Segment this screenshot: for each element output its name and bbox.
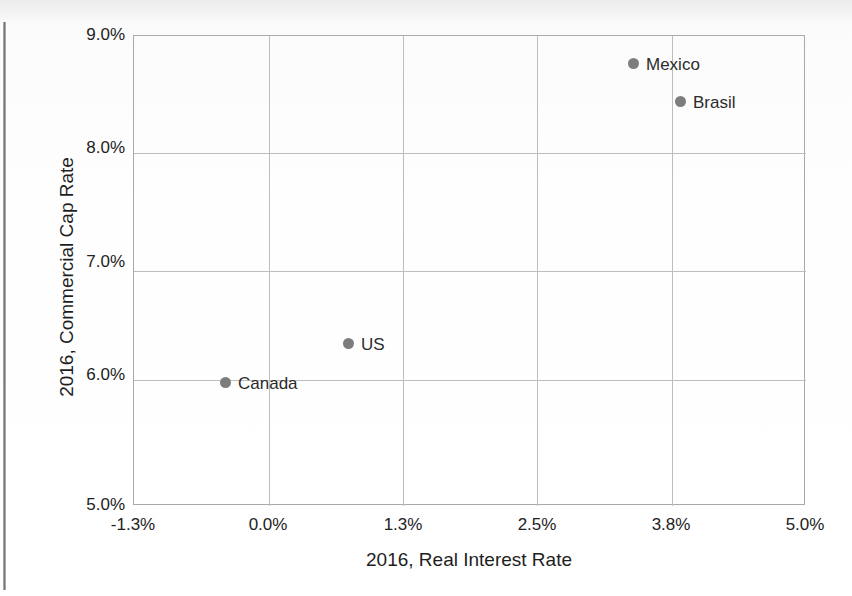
- x-tick-1-3: 1.3%: [384, 516, 423, 533]
- x-axis-title: 2016, Real Interest Rate: [133, 549, 805, 571]
- data-label-mexico: Mexico: [646, 56, 700, 73]
- data-point-canada[interactable]: [220, 377, 231, 388]
- y-axis-title: 2016, Commercial Cap Rate: [56, 42, 78, 512]
- data-label-canada: Canada: [238, 375, 298, 392]
- y-tick-9: 9.0%: [86, 26, 125, 43]
- y-tick-5: 5.0%: [86, 496, 125, 513]
- gridline-v-2-5: [537, 36, 538, 506]
- plot-area: Mexico Brasil US Canada: [133, 35, 805, 505]
- data-point-mexico[interactable]: [628, 58, 639, 69]
- x-tick-0: 0.0%: [249, 516, 288, 533]
- gridline-h-7: [134, 271, 806, 272]
- data-label-us: US: [361, 336, 385, 353]
- chart-page: 9.0% 8.0% 7.0% 6.0% 5.0% Mexico Brasil U…: [0, 0, 852, 596]
- x-tick-neg1-3: -1.3%: [111, 516, 155, 533]
- y-tick-7: 7.0%: [86, 253, 125, 270]
- data-point-brasil[interactable]: [675, 96, 686, 107]
- y-tick-8: 8.0%: [86, 139, 125, 156]
- scan-tint-top: [0, 0, 852, 26]
- gridline-h-8: [134, 153, 806, 154]
- gridline-h-6: [134, 380, 806, 381]
- gridline-v-0: [269, 36, 270, 506]
- x-tick-3-8: 3.8%: [652, 516, 691, 533]
- x-tick-2-5: 2.5%: [518, 516, 557, 533]
- x-tick-5-0: 5.0%: [786, 516, 825, 533]
- data-point-us[interactable]: [343, 338, 354, 349]
- y-tick-6: 6.0%: [86, 366, 125, 383]
- gridline-v-1-3: [403, 36, 404, 506]
- gridline-v-3-8: [672, 36, 673, 506]
- data-label-brasil: Brasil: [693, 94, 736, 111]
